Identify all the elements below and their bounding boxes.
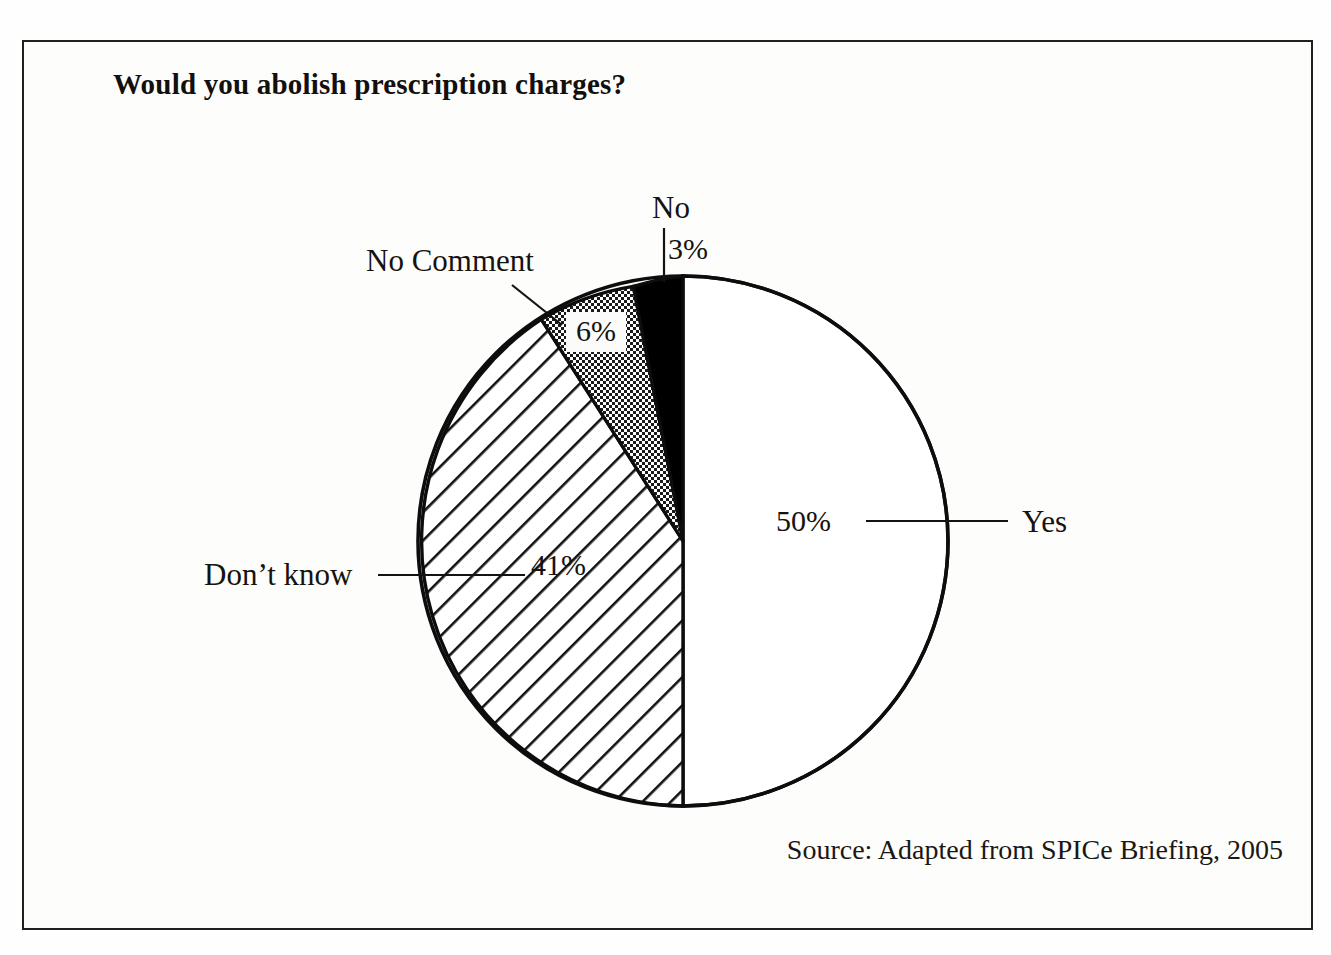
slice-value-yes: 50% [776,504,831,538]
slice-value-dont-know: 41% [531,548,586,582]
slice-label-dont-know: Don’t know [204,557,352,593]
slice-value-no: 3% [668,232,708,266]
slice-label-no: No [652,190,690,226]
pie-chart [0,0,1331,955]
slice-label-no-comment: No Comment [366,243,534,279]
slice-value-no-comment: 6% [566,312,626,352]
figure-page: Would you abolish prescription charges? [0,0,1331,955]
source-note: Source: Adapted from SPICe Briefing, 200… [683,834,1283,866]
pie-slice-yes[interactable] [683,276,948,806]
slice-label-yes: Yes [1022,504,1067,540]
